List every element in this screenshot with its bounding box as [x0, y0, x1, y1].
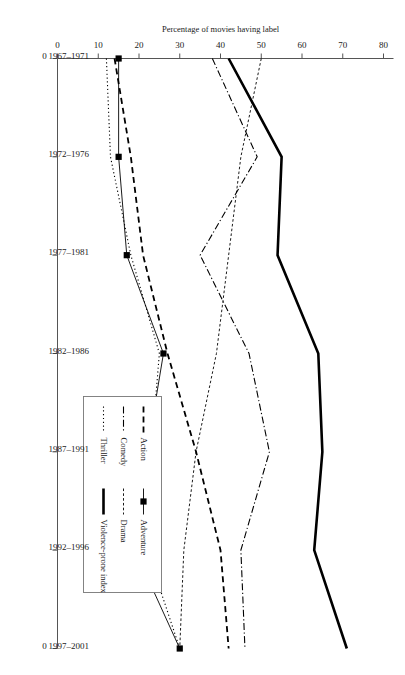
- series-line-comedy: [200, 58, 269, 648]
- value-tick-label: 80: [379, 39, 389, 49]
- legend-label: Thriller: [98, 437, 108, 463]
- value-tick-label: 60: [297, 39, 307, 49]
- legend-label: Drama: [118, 519, 128, 542]
- series-marker: [115, 55, 121, 61]
- series-marker: [123, 252, 129, 258]
- value-tick-label: 30: [175, 39, 185, 49]
- axis-origin-label: 0: [42, 50, 47, 60]
- category-tick-label: 1977–1981: [48, 247, 89, 257]
- value-tick-label: 40: [216, 39, 226, 49]
- line-chart-svg: ActionComedyThrillerAdventureDramaViolen…: [0, 0, 405, 675]
- legend-label: Adventure: [138, 519, 148, 555]
- category-tick-label: 1967–1971: [48, 50, 89, 60]
- legend-label: Comedy: [118, 437, 128, 467]
- chart-screenshot: ActionComedyThrillerAdventureDramaViolen…: [0, 0, 405, 675]
- legend-label: Violence-prone index: [98, 519, 108, 593]
- y-axis-title: Percentage of movies having label: [161, 23, 279, 33]
- category-tick-label: 1997–2001: [48, 640, 89, 650]
- figure-rotated-container: ActionComedyThrillerAdventureDramaViolen…: [0, 0, 405, 675]
- category-tick-label: 1992–1996: [48, 542, 89, 552]
- value-tick-label: 10: [93, 39, 103, 49]
- value-tick-label: 20: [134, 39, 144, 49]
- category-tick-label: 1987–1991: [48, 443, 89, 453]
- axis-origin-label: 0: [42, 640, 47, 650]
- category-tick-label: 1972–1976: [48, 148, 89, 158]
- series-marker: [160, 350, 166, 356]
- value-tick-label: 70: [338, 39, 348, 49]
- legend-swatch-marker: [140, 498, 146, 504]
- value-tick-label: 0: [55, 39, 60, 49]
- series-line-violence-prone-index: [228, 58, 346, 648]
- plot-area: ActionComedyThrillerAdventureDramaViolen…: [0, 0, 405, 675]
- legend-label: Action: [138, 437, 148, 461]
- series-marker: [176, 645, 182, 651]
- value-tick-label: 50: [256, 39, 266, 49]
- legend-box: [83, 396, 161, 592]
- category-tick-label: 1982–1986: [48, 345, 89, 355]
- legend-group: ActionComedyThrillerAdventureDramaViolen…: [83, 396, 161, 593]
- series-marker: [115, 153, 121, 159]
